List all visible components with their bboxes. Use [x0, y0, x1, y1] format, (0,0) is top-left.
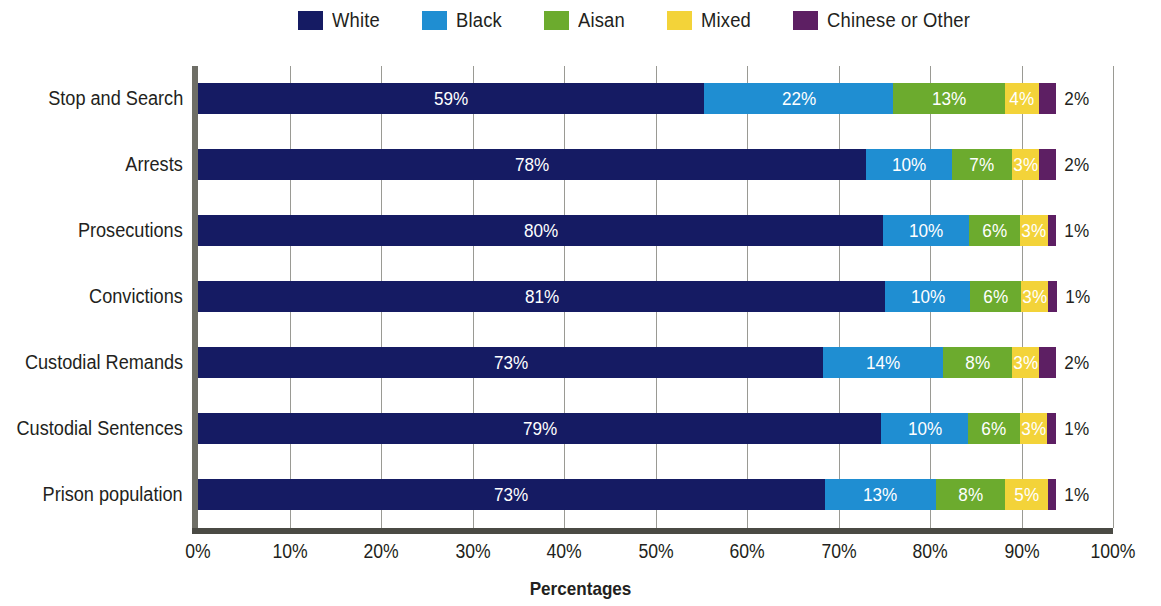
category-label: Prison population [0, 483, 183, 506]
bar-segment-outside-value: 1% [1056, 215, 1113, 246]
x-tick-label: 0% [184, 540, 213, 563]
bar-segment: 7% [952, 149, 1012, 180]
bar-segment-value: 13% [932, 88, 966, 110]
bar-segment-outside-value: 1% [1056, 413, 1113, 444]
bar-segment [1048, 281, 1056, 312]
bar-segment [1048, 215, 1057, 246]
bar-row: 79%10%6%3%1% [198, 413, 1113, 444]
x-tick-label-text: 100% [1090, 540, 1135, 563]
x-tick-label: 80% [910, 540, 950, 563]
legend-item-label: Aisan [578, 9, 625, 32]
bar-segment-value: 6% [981, 418, 1006, 440]
x-axis-title: Percentages [0, 578, 1161, 600]
x-tick-label: 70% [818, 540, 858, 563]
bar-segment: 3% [1020, 413, 1047, 444]
bar-segment: 8% [943, 347, 1012, 378]
bar-segment: 3% [1020, 215, 1047, 246]
bar-row: 73%14%8%3%2% [198, 347, 1113, 378]
bar-segment-value: 3% [1013, 154, 1038, 176]
legend-item: Mixed [667, 9, 755, 32]
x-tick-label: 50% [635, 540, 675, 563]
bar-segment: 3% [1021, 281, 1048, 312]
bar-segment: 80% [198, 215, 883, 246]
gridline [1113, 66, 1114, 528]
bar-segment: 73% [198, 347, 823, 378]
bar-segment-value: 1% [1065, 286, 1090, 308]
bar-segment-value: 73% [494, 484, 528, 506]
bar-segment-value: 2% [1065, 88, 1090, 110]
bar-segment-value: 79% [523, 418, 557, 440]
bar-segment-value: 13% [863, 484, 897, 506]
bar-segment: 8% [936, 479, 1005, 510]
x-tick-label-text: 0% [185, 540, 210, 563]
bar-segment: 79% [198, 413, 881, 444]
legend-swatch-mixed [667, 11, 692, 30]
category-label: Stop and Search [0, 87, 183, 110]
bar-segment: 10% [881, 413, 968, 444]
bar-segment: 10% [885, 281, 970, 312]
bar-segment-outside-value: 1% [1056, 479, 1113, 510]
bar-segment [1039, 347, 1056, 378]
bar-segment-value: 10% [909, 220, 943, 242]
bar-segment [1039, 83, 1056, 114]
category-label-text: Stop and Search [48, 87, 183, 110]
bar-segment: 6% [970, 281, 1021, 312]
x-tick-label-text: 80% [912, 540, 947, 563]
bar-segment-value: 3% [1022, 286, 1047, 308]
x-axis-title-text: Percentages [530, 578, 632, 600]
legend-item-label: Black [456, 9, 502, 32]
bar-segment-value: 5% [1014, 484, 1039, 506]
legend-item-label: White [332, 9, 380, 32]
bar-segment [1047, 413, 1056, 444]
bar-row: 73%13%8%5%1% [198, 479, 1113, 510]
plot-area: 59%22%13%4%2%78%10%7%3%2%80%10%6%3%1%81%… [198, 66, 1113, 528]
bar-segment: 14% [823, 347, 943, 378]
bar-segment: 10% [866, 149, 952, 180]
category-label-text: Convictions [89, 285, 183, 308]
bar-row: 80%10%6%3%1% [198, 215, 1113, 246]
bar-segment: 4% [1005, 83, 1039, 114]
x-tick-label: 100% [1087, 540, 1138, 563]
bar-segment-outside-value: 2% [1056, 347, 1113, 378]
x-tick-label: 60% [727, 540, 767, 563]
legend-item-label: Mixed [701, 9, 751, 32]
bar-segment-value: 4% [1010, 88, 1035, 110]
bar-segment: 3% [1012, 347, 1039, 378]
bar-segment-outside-value: 2% [1056, 149, 1113, 180]
x-tick-label: 30% [452, 540, 492, 563]
x-tick-label-text: 40% [546, 540, 581, 563]
bar-segment-value: 1% [1065, 484, 1090, 506]
legend-swatch-asian [544, 11, 569, 30]
bar-row: 78%10%7%3%2% [198, 149, 1113, 180]
legend-swatch-chinese-or-other [793, 11, 818, 30]
bar-segment [1039, 149, 1056, 180]
category-label-text: Custodial Remands [25, 351, 183, 374]
x-tick-label: 90% [1001, 540, 1041, 563]
bar-segment-value: 14% [866, 352, 900, 374]
x-tick-label: 10% [269, 540, 309, 563]
bar-segment: 59% [198, 83, 704, 114]
bar-segment-value: 6% [982, 220, 1007, 242]
x-tick-label-text: 30% [455, 540, 490, 563]
legend-item: Aisan [544, 9, 629, 32]
bar-segment-value: 8% [958, 484, 983, 506]
bar-segment-value: 80% [524, 220, 558, 242]
bar-segment-value: 6% [983, 286, 1008, 308]
bar-segment-value: 7% [969, 154, 994, 176]
category-label: Custodial Sentences [0, 417, 183, 440]
category-label-text: Prosecutions [78, 219, 183, 242]
x-tick-label-text: 50% [638, 540, 673, 563]
category-label: Custodial Remands [0, 351, 183, 374]
x-tick-label: 20% [361, 540, 401, 563]
x-tick-label-text: 10% [272, 540, 307, 563]
bar-segment-value: 1% [1065, 220, 1090, 242]
bar-segment-value: 78% [515, 154, 549, 176]
bar-segment-value: 10% [908, 418, 942, 440]
bar-segment: 6% [969, 215, 1020, 246]
bar-segment: 10% [883, 215, 969, 246]
bar-row: 59%22%13%4%2% [198, 83, 1113, 114]
bar-segment-value: 2% [1065, 352, 1090, 374]
bar-segment-value: 73% [494, 352, 528, 374]
category-label: Convictions [0, 285, 183, 308]
bar-segment: 22% [704, 83, 893, 114]
